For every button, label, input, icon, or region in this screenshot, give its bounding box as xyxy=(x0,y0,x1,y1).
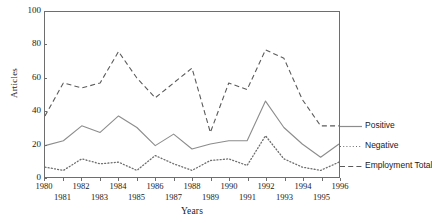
x-axis-title: Years xyxy=(0,206,384,216)
x-tick-label: 1990 xyxy=(214,182,244,191)
y-tick-mark xyxy=(44,111,47,112)
legend-swatch-icon xyxy=(340,145,362,147)
x-tick-label: 1985 xyxy=(122,193,152,202)
x-tick-label: 1996 xyxy=(325,182,355,191)
x-tick-mark xyxy=(100,178,101,181)
x-tick-label: 1984 xyxy=(103,182,133,191)
legend-label: Positive xyxy=(365,119,395,131)
legend-item-employment-total[interactable]: Employment Total xyxy=(340,158,412,178)
y-tick-mark xyxy=(44,145,47,146)
y-tick-mark xyxy=(44,44,47,45)
legend-item-positive[interactable]: Positive xyxy=(340,118,412,138)
legend-swatch-icon xyxy=(340,125,362,127)
x-tick-label: 1981 xyxy=(48,193,78,202)
chart-legend: PositiveNegativeEmployment Total xyxy=(340,118,412,178)
y-tick-mark xyxy=(44,78,47,79)
x-tick-label: 1994 xyxy=(288,182,318,191)
y-tick-label: 20 xyxy=(1,140,41,149)
x-tick-label: 1980 xyxy=(29,182,59,191)
series-line-positive xyxy=(45,101,339,157)
series-canvas xyxy=(45,12,339,177)
series-line-negative xyxy=(45,136,339,171)
x-tick-mark xyxy=(174,178,175,181)
x-tick-label: 1992 xyxy=(251,182,281,191)
x-tick-label: 1983 xyxy=(85,193,115,202)
legend-label: Employment Total xyxy=(365,159,432,171)
y-tick-mark xyxy=(44,11,47,12)
x-tick-mark xyxy=(322,178,323,181)
legend-item-negative[interactable]: Negative xyxy=(340,138,412,158)
plot-area xyxy=(44,11,340,178)
y-tick-label: 60 xyxy=(1,73,41,82)
legend-label: Negative xyxy=(365,139,399,151)
y-tick-label: 80 xyxy=(1,39,41,48)
x-tick-mark xyxy=(248,178,249,181)
legend-swatch-icon xyxy=(340,165,362,167)
x-tick-mark xyxy=(211,178,212,181)
x-tick-mark xyxy=(285,178,286,181)
y-axis-ticks: 020406080100 xyxy=(0,11,41,178)
x-tick-mark xyxy=(63,178,64,181)
y-tick-label: 40 xyxy=(1,106,41,115)
y-tick-label: 100 xyxy=(1,6,41,15)
y-tick-mark xyxy=(44,178,47,179)
x-tick-label: 1986 xyxy=(140,182,170,191)
x-tick-label: 1989 xyxy=(196,193,226,202)
y-tick-label: 0 xyxy=(1,173,41,182)
cropped-title-remnant xyxy=(62,0,292,4)
x-tick-label: 1987 xyxy=(159,193,189,202)
x-tick-label: 1993 xyxy=(270,193,300,202)
x-tick-label: 1991 xyxy=(233,193,263,202)
x-tick-label: 1988 xyxy=(177,182,207,191)
x-tick-label: 1995 xyxy=(307,193,337,202)
series-line-employment-total xyxy=(45,50,339,133)
x-tick-label: 1982 xyxy=(66,182,96,191)
x-tick-mark xyxy=(137,178,138,181)
